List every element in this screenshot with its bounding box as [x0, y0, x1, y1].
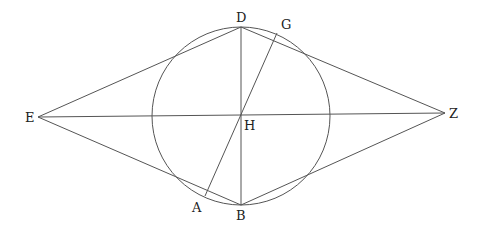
label-A: A — [192, 201, 201, 214]
geometry-diagram — [0, 0, 480, 232]
segment-BE — [38, 117, 241, 205]
label-H: H — [244, 119, 255, 132]
label-B: B — [236, 209, 246, 222]
segment-ED — [38, 27, 241, 117]
segment-DZ — [241, 27, 445, 113]
label-D: D — [236, 11, 246, 24]
label-E: E — [25, 111, 35, 124]
label-Z: Z — [449, 107, 458, 120]
segment-ZB — [241, 113, 445, 205]
label-G: G — [281, 18, 291, 31]
